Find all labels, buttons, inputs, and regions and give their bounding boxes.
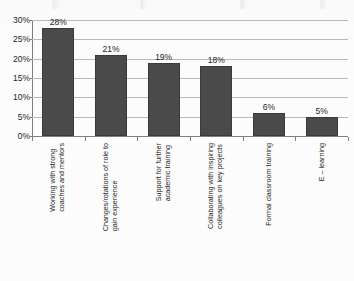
bar-value-label: 21% (85, 44, 138, 54)
x-tick-mark (190, 137, 191, 141)
bar[interactable] (148, 63, 180, 136)
x-tick-mark (137, 137, 138, 141)
x-axis-label: Formal classroom training (243, 143, 296, 281)
y-tick-label: 20% (2, 55, 30, 64)
y-tick-label: 15% (2, 74, 30, 83)
bar-value-label: 19% (137, 52, 190, 62)
bar[interactable] (95, 55, 127, 136)
x-tick-mark (295, 137, 296, 141)
bar-slot (137, 20, 190, 136)
bar-slot (190, 20, 243, 136)
bar-slot (243, 20, 296, 136)
bar[interactable] (306, 117, 338, 136)
bar-value-label: 18% (190, 55, 243, 65)
plot-area (32, 20, 348, 136)
bar[interactable] (253, 113, 285, 136)
y-tick-label: 25% (2, 35, 30, 44)
cropped-text-sliver (0, 0, 354, 9)
x-tick-mark (85, 137, 86, 141)
bar-chart: 0%5%10%15%20%25%30% Working with strongc… (0, 0, 354, 281)
x-axis-label-line: Formal classroom training (265, 143, 274, 226)
bar-value-label: 6% (243, 102, 296, 112)
x-axis-label-line: gain experience (111, 143, 120, 231)
x-axis-label: Collaborating with inspiringcolleagues o… (190, 143, 243, 281)
bar-slot (85, 20, 138, 136)
y-tick-label: 30% (2, 16, 30, 25)
x-axis-label-line: E – learning (317, 143, 326, 181)
x-tick-mark (243, 137, 244, 141)
x-axis-label: Working with strongcoaches and mentors (32, 143, 85, 281)
x-tick-mark (348, 137, 349, 141)
bar[interactable] (42, 28, 74, 136)
y-axis: 0%5%10%15%20%25%30% (0, 0, 30, 160)
x-axis-label-line: academic training (164, 143, 173, 201)
y-tick-label: 5% (2, 113, 30, 122)
y-tick-label: 0% (2, 132, 30, 141)
bar-value-label: 5% (295, 106, 348, 116)
x-axis-label-line: coaches and mentors (58, 143, 67, 212)
x-tick-mark (32, 137, 33, 141)
x-axis-labels: Working with strongcoaches and mentorsCh… (32, 143, 348, 281)
bar-slot (295, 20, 348, 136)
x-axis-label-line: Support for further (155, 143, 164, 201)
x-axis-label: E – learning (295, 143, 348, 281)
x-axis-label: Support for furtheracademic training (137, 143, 190, 281)
x-axis-label-line: colleagues on key projects (216, 143, 225, 229)
y-tick-label: 10% (2, 93, 30, 102)
bar-value-label: 28% (32, 17, 85, 27)
x-axis-label: Changes/rotations of role togain experie… (85, 143, 138, 281)
bar-slot (32, 20, 85, 136)
bar[interactable] (200, 66, 232, 136)
